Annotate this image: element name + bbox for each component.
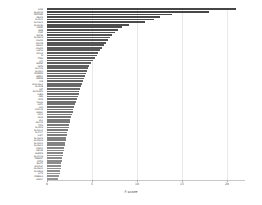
bar [47,47,102,49]
bar [47,39,108,41]
bar [47,111,73,113]
bar-row [47,137,245,139]
bar-row [47,116,245,118]
bar [47,73,86,75]
bar [47,67,88,69]
bar-row [47,170,245,172]
bar [47,52,98,54]
x-tick-label: 10 [135,183,139,187]
bar [47,165,61,167]
bar-row [47,34,245,36]
bar-row [47,134,245,136]
bar [47,16,160,18]
x-axis-title: F-score [0,190,262,194]
bar [47,88,80,90]
bar [47,37,110,39]
bar-row [47,85,245,87]
bar-row [47,124,245,126]
bar-row [47,127,245,129]
y-axis-label: HNF1A [36,178,43,180]
bar-row [47,144,245,146]
bar [47,78,84,80]
bar-row [47,8,245,10]
bar-row [47,101,245,103]
bar [47,134,67,136]
bar [47,21,145,23]
bar-row [47,88,245,90]
bar-row [47,121,245,123]
bar [47,91,79,93]
bar [47,8,236,10]
bar-row [47,44,245,46]
bar [47,116,71,118]
bar [47,175,59,177]
bar [47,114,72,116]
bar [47,80,83,82]
bar-row [47,70,245,72]
x-tick-label: 5 [91,183,93,187]
bar [47,157,62,159]
bar-row [47,52,245,54]
bar [47,150,64,152]
bar [47,19,154,21]
bar [47,160,62,162]
bar [47,42,106,44]
bar-row [47,103,245,105]
bar [47,85,81,87]
bar [47,137,66,139]
bar [47,155,63,157]
bar-row [47,29,245,31]
bar-row [47,57,245,59]
x-tick-label: 15 [180,183,184,187]
bar-row [47,160,245,162]
bar [47,170,60,172]
bar [47,24,129,26]
bar [47,173,60,175]
bar-row [47,165,245,167]
bar-row [47,152,245,154]
bar-row [47,83,245,85]
plot-area [47,8,245,180]
bar-row [47,19,245,21]
bar [47,29,118,31]
bar-row [47,111,245,113]
bar [47,57,95,59]
bar-row [47,175,245,177]
bar-row [47,16,245,18]
bar [47,142,65,144]
bar [47,55,97,57]
bar-row [47,93,245,95]
bar-row [47,155,245,157]
bar-row [47,78,245,80]
bar-row [47,132,245,134]
bar [47,101,76,103]
bar [47,162,61,164]
bar [47,65,89,67]
bar [47,147,64,149]
bar-chart: ACE2SLC6A19TMPRSS2ABCC2SLC5A1SLC15A1SLC6… [0,0,262,205]
bar-row [47,14,245,16]
bar [47,11,209,13]
bar [47,75,85,77]
bar [47,132,67,134]
bar [47,60,93,62]
bar-row [47,129,245,131]
bar-row [47,139,245,141]
bar-row [47,106,245,108]
x-tick-label: 20 [225,183,229,187]
bar [47,49,100,51]
bar-row [47,39,245,41]
bar [47,124,69,126]
bar-row [47,173,245,175]
y-axis-category-labels: ACE2SLC6A19TMPRSS2ABCC2SLC5A1SLC15A1SLC6… [0,8,45,180]
bar [47,119,70,121]
bar [47,26,122,28]
bar-row [47,42,245,44]
bar [47,103,75,105]
bar-row [47,32,245,34]
bar-row [47,114,245,116]
bar-row [47,67,245,69]
bar [47,98,77,100]
bar [47,109,73,111]
bar [47,127,69,129]
